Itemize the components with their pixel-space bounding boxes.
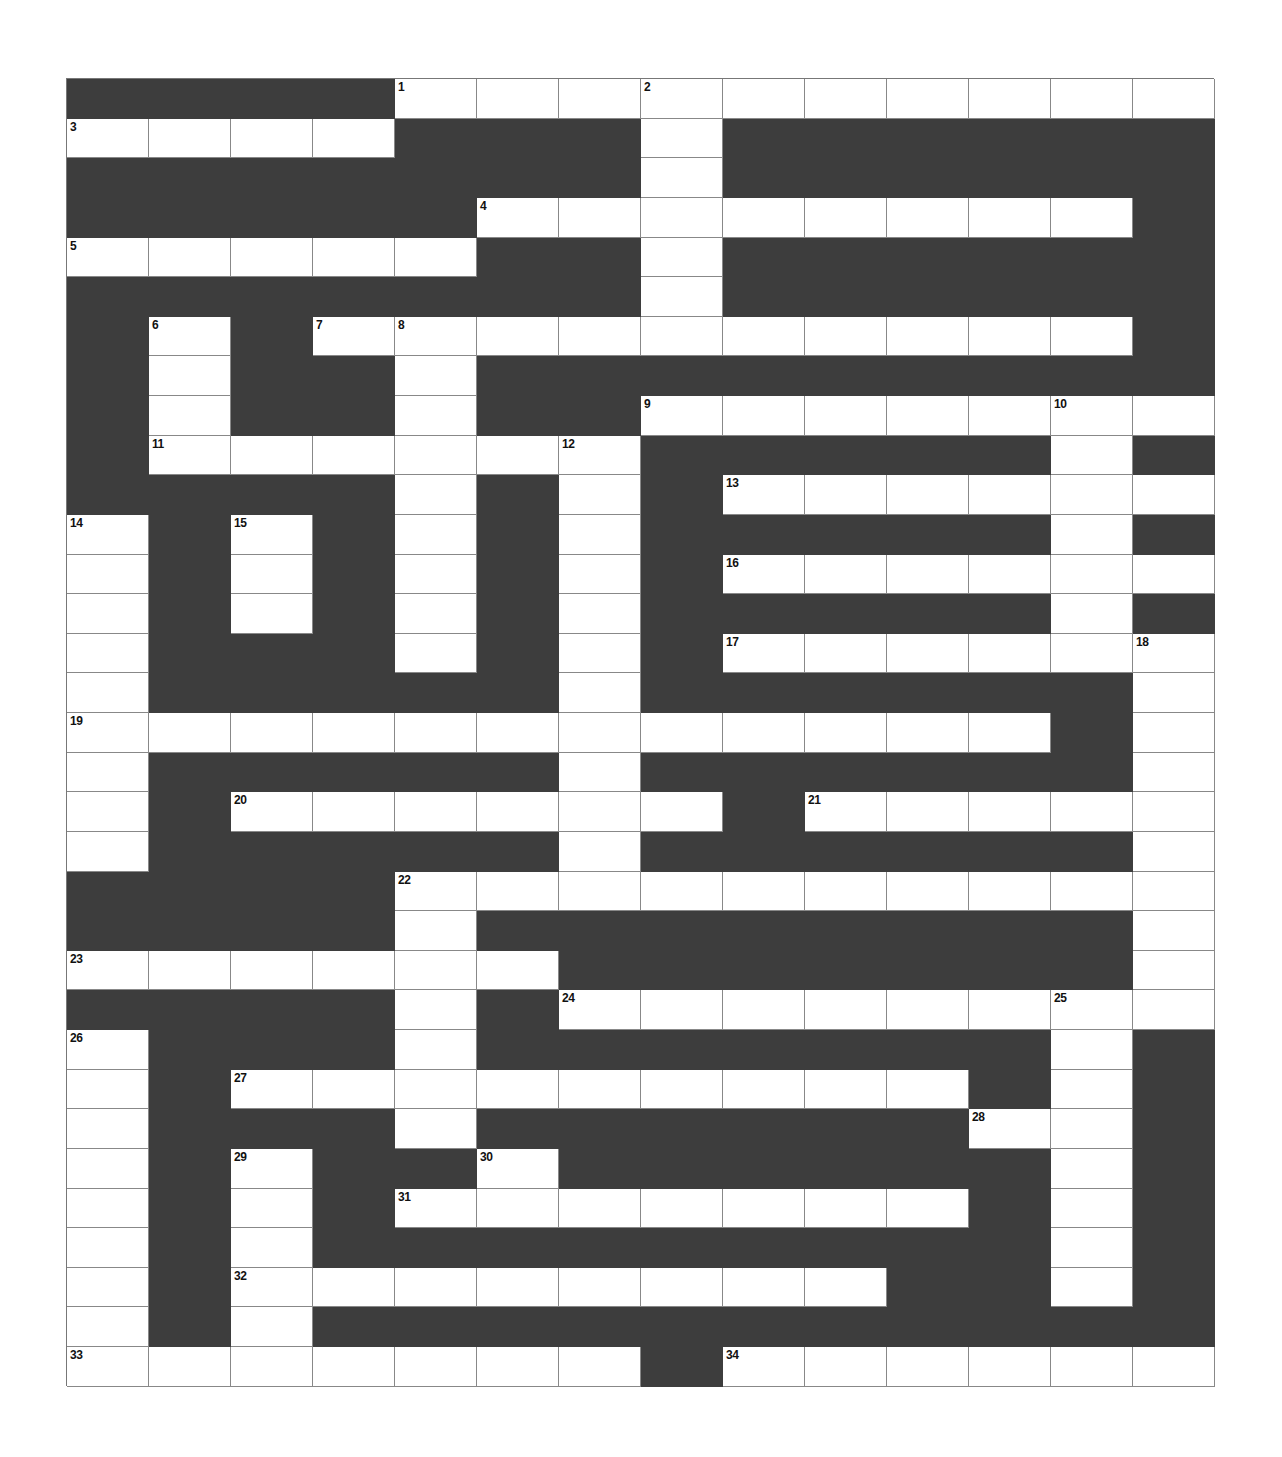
crossword-cell[interactable]: 28 bbox=[969, 1109, 1051, 1149]
crossword-cell[interactable] bbox=[67, 1228, 149, 1268]
crossword-cell[interactable] bbox=[231, 951, 313, 991]
crossword-cell[interactable] bbox=[231, 238, 313, 278]
crossword-cell[interactable] bbox=[395, 792, 477, 832]
crossword-cell[interactable] bbox=[1133, 555, 1215, 595]
crossword-cell[interactable]: 18 bbox=[1133, 634, 1215, 674]
crossword-cell[interactable] bbox=[313, 713, 395, 753]
crossword-cell[interactable] bbox=[149, 396, 231, 436]
crossword-cell[interactable] bbox=[231, 119, 313, 159]
crossword-cell[interactable] bbox=[67, 1109, 149, 1149]
crossword-cell[interactable] bbox=[887, 79, 969, 119]
crossword-cell[interactable]: 15 bbox=[231, 515, 313, 555]
crossword-cell[interactable]: 14 bbox=[67, 515, 149, 555]
crossword-cell[interactable] bbox=[723, 872, 805, 912]
crossword-cell[interactable] bbox=[559, 594, 641, 634]
crossword-cell[interactable] bbox=[805, 1189, 887, 1229]
crossword-cell[interactable] bbox=[67, 594, 149, 634]
crossword-cell[interactable] bbox=[395, 1347, 477, 1387]
crossword-cell[interactable] bbox=[395, 555, 477, 595]
crossword-cell[interactable] bbox=[969, 634, 1051, 674]
crossword-cell[interactable]: 24 bbox=[559, 990, 641, 1030]
crossword-cell[interactable] bbox=[395, 396, 477, 436]
crossword-cell[interactable] bbox=[805, 634, 887, 674]
crossword-cell[interactable] bbox=[1133, 872, 1215, 912]
crossword-cell[interactable] bbox=[969, 555, 1051, 595]
crossword-cell[interactable] bbox=[149, 238, 231, 278]
crossword-cell[interactable] bbox=[395, 356, 477, 396]
crossword-cell[interactable] bbox=[559, 1347, 641, 1387]
crossword-cell[interactable] bbox=[1051, 872, 1133, 912]
crossword-cell[interactable]: 29 bbox=[231, 1149, 313, 1189]
crossword-cell[interactable] bbox=[231, 594, 313, 634]
crossword-cell[interactable] bbox=[969, 396, 1051, 436]
crossword-cell[interactable] bbox=[723, 317, 805, 357]
crossword-cell[interactable]: 22 bbox=[395, 872, 477, 912]
crossword-cell[interactable] bbox=[67, 753, 149, 793]
crossword-cell[interactable] bbox=[1051, 1347, 1133, 1387]
crossword-cell[interactable] bbox=[1051, 1109, 1133, 1149]
crossword-cell[interactable] bbox=[395, 1030, 477, 1070]
crossword-cell[interactable] bbox=[641, 1268, 723, 1308]
crossword-cell[interactable] bbox=[641, 990, 723, 1030]
crossword-cell[interactable] bbox=[805, 555, 887, 595]
crossword-cell[interactable] bbox=[969, 990, 1051, 1030]
crossword-cell[interactable] bbox=[477, 792, 559, 832]
crossword-cell[interactable] bbox=[559, 753, 641, 793]
crossword-cell[interactable] bbox=[887, 1189, 969, 1229]
crossword-cell[interactable]: 30 bbox=[477, 1149, 559, 1189]
crossword-cell[interactable] bbox=[395, 634, 477, 674]
crossword-cell[interactable] bbox=[149, 951, 231, 991]
crossword-cell[interactable] bbox=[231, 436, 313, 476]
crossword-cell[interactable] bbox=[313, 1070, 395, 1110]
crossword-cell[interactable] bbox=[641, 317, 723, 357]
crossword-cell[interactable] bbox=[641, 872, 723, 912]
crossword-cell[interactable] bbox=[641, 1189, 723, 1229]
crossword-cell[interactable] bbox=[805, 317, 887, 357]
crossword-cell[interactable] bbox=[887, 792, 969, 832]
crossword-cell[interactable] bbox=[67, 673, 149, 713]
crossword-cell[interactable] bbox=[1051, 634, 1133, 674]
crossword-cell[interactable] bbox=[559, 515, 641, 555]
crossword-cell[interactable] bbox=[641, 238, 723, 278]
crossword-cell[interactable] bbox=[313, 792, 395, 832]
crossword-cell[interactable] bbox=[805, 713, 887, 753]
crossword-cell[interactable] bbox=[231, 1347, 313, 1387]
crossword-cell[interactable] bbox=[313, 238, 395, 278]
crossword-cell[interactable] bbox=[395, 436, 477, 476]
crossword-cell[interactable] bbox=[641, 277, 723, 317]
crossword-cell[interactable] bbox=[559, 317, 641, 357]
crossword-cell[interactable] bbox=[1051, 792, 1133, 832]
crossword-cell[interactable] bbox=[559, 832, 641, 872]
crossword-cell[interactable] bbox=[395, 951, 477, 991]
crossword-cell[interactable] bbox=[313, 951, 395, 991]
crossword-cell[interactable] bbox=[67, 1189, 149, 1229]
crossword-cell[interactable] bbox=[231, 555, 313, 595]
crossword-cell[interactable] bbox=[395, 1268, 477, 1308]
crossword-cell[interactable] bbox=[313, 1268, 395, 1308]
crossword-cell[interactable] bbox=[149, 356, 231, 396]
crossword-cell[interactable] bbox=[559, 555, 641, 595]
crossword-cell[interactable] bbox=[805, 1070, 887, 1110]
crossword-cell[interactable]: 17 bbox=[723, 634, 805, 674]
crossword-cell[interactable] bbox=[559, 1070, 641, 1110]
crossword-cell[interactable]: 33 bbox=[67, 1347, 149, 1387]
crossword-cell[interactable] bbox=[1133, 832, 1215, 872]
crossword-cell[interactable] bbox=[805, 79, 887, 119]
crossword-cell[interactable] bbox=[395, 990, 477, 1030]
crossword-cell[interactable] bbox=[1133, 475, 1215, 515]
crossword-cell[interactable] bbox=[887, 990, 969, 1030]
crossword-cell[interactable] bbox=[723, 713, 805, 753]
crossword-cell[interactable] bbox=[641, 1070, 723, 1110]
crossword-cell[interactable]: 5 bbox=[67, 238, 149, 278]
crossword-cell[interactable] bbox=[641, 792, 723, 832]
crossword-cell[interactable] bbox=[887, 1070, 969, 1110]
crossword-cell[interactable] bbox=[723, 1070, 805, 1110]
crossword-cell[interactable] bbox=[67, 1149, 149, 1189]
crossword-cell[interactable]: 11 bbox=[149, 436, 231, 476]
crossword-cell[interactable] bbox=[805, 475, 887, 515]
crossword-cell[interactable] bbox=[149, 119, 231, 159]
crossword-cell[interactable] bbox=[477, 1347, 559, 1387]
crossword-cell[interactable]: 20 bbox=[231, 792, 313, 832]
crossword-cell[interactable] bbox=[1051, 1030, 1133, 1070]
crossword-cell[interactable] bbox=[969, 317, 1051, 357]
